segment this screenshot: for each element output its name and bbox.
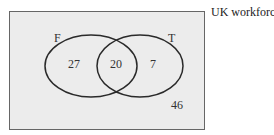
set-f-label: F (54, 32, 61, 44)
venn-diagram (0, 0, 274, 135)
outside-count: 46 (171, 99, 183, 111)
t-only-count: 7 (150, 58, 156, 70)
intersection-count: 20 (110, 58, 122, 70)
universe-label: UK workforce (211, 5, 274, 20)
set-t-label: T (168, 32, 175, 44)
f-only-count: 27 (68, 58, 80, 70)
